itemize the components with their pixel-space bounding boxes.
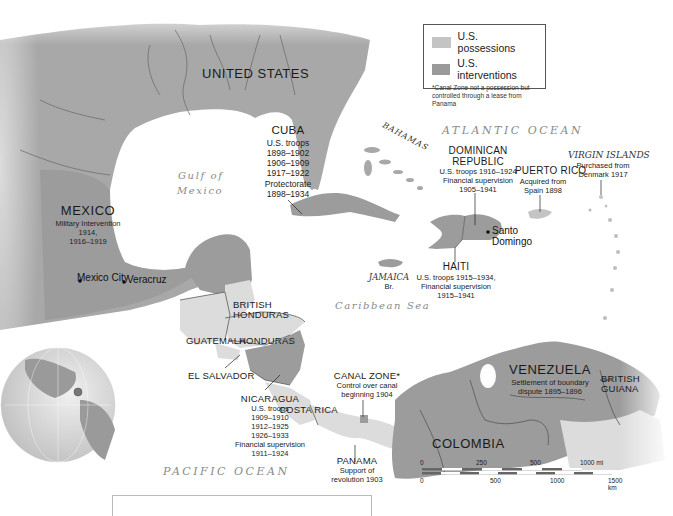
- label-gulf-line2: Mexico: [177, 185, 223, 197]
- label-gulf-line1: Gulf of: [178, 170, 223, 182]
- vi-note: Denmark 1917: [568, 170, 638, 179]
- label-panama: PANAMA Support of revolution 1903: [327, 455, 387, 484]
- pr-name: PUERTO RICO: [515, 165, 571, 177]
- region-virgin-islands: [599, 195, 608, 208]
- label-virgin-islands: VIRGIN ISLANDS Purchased from Denmark 19…: [568, 150, 638, 179]
- santo-domingo-line1: Santo: [492, 226, 532, 237]
- jamaica-name: JAMAICA: [364, 272, 414, 282]
- label-santo-domingo: Santo Domingo: [492, 226, 532, 247]
- vi-name: VIRGIN ISLANDS: [568, 150, 638, 161]
- label-venezuela: VENEZUELA Settlement of boundary dispute…: [507, 362, 593, 396]
- cuba-note: 1898–1934: [260, 189, 316, 199]
- canal-zone-name: CANAL ZONE*: [332, 370, 402, 381]
- haiti-note: U.S. troops 1915–1934,: [412, 273, 500, 282]
- vi-note: Purchased from: [568, 161, 638, 170]
- haiti-note: 1915–1941: [412, 291, 500, 300]
- label-british-guiana: BRITISH GUIANA: [601, 374, 640, 395]
- scale-km-0: 0: [420, 477, 424, 484]
- legend-label: U.S. possessions: [458, 30, 537, 54]
- label-veracruz: Veracruz: [127, 274, 166, 286]
- cuba-note: 1906–1909: [260, 158, 316, 168]
- label-dominican-republic: DOMINICAN REPUBLIC U.S. troops 1916–1924…: [438, 146, 518, 194]
- scale-mi-500: 500: [530, 459, 541, 466]
- mexico-name: MEXICO: [48, 203, 128, 219]
- legend-swatch-possessions: [432, 37, 451, 48]
- region-jamaica: [378, 259, 403, 267]
- label-mexico: MEXICO Military Intervention 1914, 1916–…: [48, 203, 128, 246]
- panama-name: PANAMA: [327, 455, 387, 466]
- caption-box: [112, 495, 372, 516]
- scale-km-1000: 1000: [550, 477, 564, 484]
- panama-note: revolution 1903: [327, 475, 387, 484]
- pr-note: Acquired from: [515, 177, 571, 186]
- pr-note: Spain 1898: [515, 186, 571, 195]
- scale-mi-250: 250: [476, 459, 487, 466]
- santo-domingo-line2: Domingo: [492, 237, 532, 248]
- label-puerto-rico: PUERTO RICO Acquired from Spain 1898: [515, 165, 571, 195]
- dr-name-line1: DOMINICAN: [438, 146, 518, 157]
- map-legend: U.S. possessions U.S. interventions *Can…: [423, 24, 546, 89]
- label-colombia: COLOMBIA: [432, 436, 505, 452]
- nicaragua-note: 1911–1924: [232, 449, 308, 458]
- label-guatemala: GUATEMALA: [186, 335, 246, 346]
- label-cuba: CUBA U.S. troops 1898–1902 1906–1909 191…: [260, 124, 316, 199]
- legend-note: *Canal Zone not a possession but control…: [432, 84, 537, 108]
- venezuela-note: Settlement of boundary: [507, 378, 593, 387]
- region-bahamas: [364, 147, 423, 190]
- nicaragua-name: NICARAGUA: [232, 393, 308, 404]
- label-mexico-city: Mexico City: [77, 272, 129, 284]
- label-costa-rica: COSTA RICA: [279, 404, 338, 415]
- dr-note: Financial supervision: [438, 176, 518, 185]
- cuba-note: Protectorate: [260, 179, 316, 189]
- dr-note: U.S. troops 1916–1924: [438, 167, 518, 176]
- region-haiti: [428, 215, 465, 249]
- nicaragua-note: Financial supervision: [232, 440, 308, 449]
- label-haiti: HAITI U.S. troops 1915–1934, Financial s…: [412, 261, 500, 300]
- legend-item-possessions: U.S. possessions: [432, 30, 537, 54]
- canal-zone-note: Control over canal: [332, 381, 402, 390]
- bh-name-line2: HONDURAS: [233, 310, 289, 320]
- venezuela-name: VENEZUELA: [507, 362, 593, 378]
- nicaragua-note: 1912–1925: [232, 422, 308, 431]
- label-atlantic-ocean: ATLANTIC OCEAN: [442, 124, 583, 137]
- globe-inset: [1, 348, 115, 462]
- scale-mi-0: 0: [420, 459, 424, 466]
- mexico-note: Military Intervention: [48, 219, 128, 228]
- scale-mi-1000: 1000 mi: [580, 459, 603, 466]
- dr-note: 1905–1941: [438, 185, 518, 194]
- jamaica-note: Br.: [364, 282, 414, 291]
- region-canal-zone: [360, 415, 368, 423]
- nicaragua-note: 1926–1933: [232, 431, 308, 440]
- mexico-note: 1914,: [48, 228, 128, 237]
- haiti-note: Financial supervision: [412, 282, 500, 291]
- legend-swatch-interventions: [432, 64, 450, 75]
- dr-name-line2: REPUBLIC: [438, 157, 518, 168]
- mexico-note: 1916–1919: [48, 237, 128, 246]
- cuba-note: 1898–1902: [260, 148, 316, 158]
- label-canal-zone: CANAL ZONE* Control over canal beginning…: [332, 370, 402, 399]
- cuba-name: CUBA: [260, 124, 316, 138]
- label-united-states: UNITED STATES: [202, 66, 309, 82]
- label-jamaica: JAMAICA Br.: [364, 272, 414, 291]
- legend-item-interventions: U.S. interventions: [432, 57, 537, 81]
- venezuela-note: dispute 1895–1896: [507, 387, 593, 396]
- panama-note: Support of: [327, 466, 387, 475]
- cuba-note: 1917–1922: [260, 168, 316, 178]
- canal-zone-note: beginning 1904: [332, 390, 402, 399]
- label-honduras: HONDURAS: [239, 335, 295, 346]
- bg-name-line2: GUIANA: [601, 384, 640, 394]
- cuba-note: U.S. troops: [260, 138, 316, 148]
- scale-bar: 0 250 500 1000 mi 0 500 1000 1500 km: [420, 458, 620, 488]
- label-el-salvador: EL SALVADOR: [188, 370, 254, 381]
- haiti-name: HAITI: [412, 261, 500, 273]
- label-british-honduras: BRITISH HONDURAS: [233, 300, 289, 321]
- label-caribbean-sea: Caribbean Sea: [335, 300, 430, 312]
- legend-label: U.S. interventions: [457, 57, 537, 81]
- scale-km-1500: 1500 km: [608, 477, 622, 491]
- scale-km-500: 500: [490, 477, 501, 484]
- label-nicaragua: NICARAGUA U.S. troops 1909–1910 1912–192…: [232, 393, 308, 458]
- label-pacific-ocean: PACIFIC OCEAN: [163, 465, 290, 478]
